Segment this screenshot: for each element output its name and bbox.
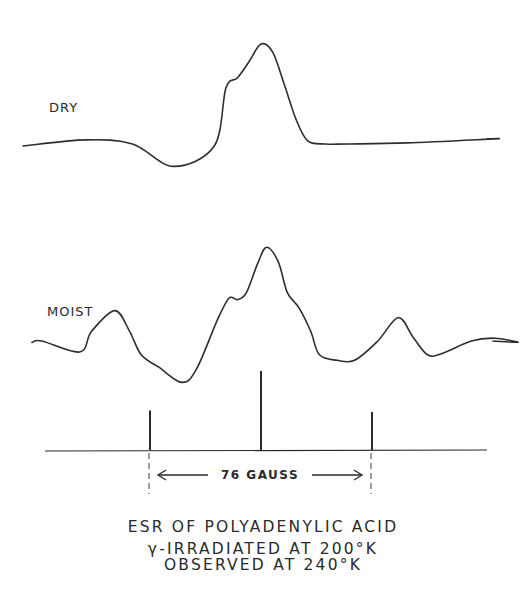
scale-arrow-right: [312, 470, 362, 480]
chart-title: ESR OF POLYADENYLIC ACID: [128, 518, 399, 536]
scale-arrow-left: [158, 470, 208, 480]
series-label-dry: DRY: [49, 100, 78, 115]
stick-baseline: [45, 450, 487, 451]
trace-dry: [23, 44, 499, 167]
scale-bar-label: 76 GAUSS: [221, 468, 299, 482]
series-label-moist: MOIST: [47, 304, 93, 319]
chart-subtitle-2: OBSERVED AT 240°K: [164, 556, 362, 574]
trace-moist: [32, 247, 518, 382]
esr-figure: DRY MOIST 76 GAUSS ESR OF POLYADENYLIC A…: [0, 0, 527, 589]
